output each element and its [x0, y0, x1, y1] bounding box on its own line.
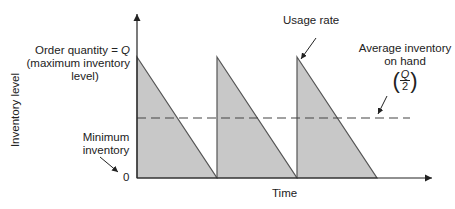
- order-quantity-label: Order quantity = Q (maximum inventory le…: [10, 44, 130, 83]
- usage-rate-label: Usage rate: [283, 14, 339, 27]
- cycle-1: [137, 57, 217, 178]
- minimum-inventory-label: Minimum inventory: [78, 131, 134, 157]
- q-over-2-fraction: Q2: [400, 69, 411, 92]
- average-arrow: [378, 96, 387, 114]
- inventory-diagram: [0, 0, 455, 209]
- zero-tick-label: 0: [123, 171, 129, 184]
- average-inventory-label: Average inventory on hand (Q2): [350, 42, 455, 92]
- y-axis-label: Inventory level: [9, 73, 21, 147]
- minimum-arrow: [100, 157, 118, 172]
- usage-rate-arrow: [301, 38, 316, 59]
- x-axis-label: Time: [272, 187, 297, 200]
